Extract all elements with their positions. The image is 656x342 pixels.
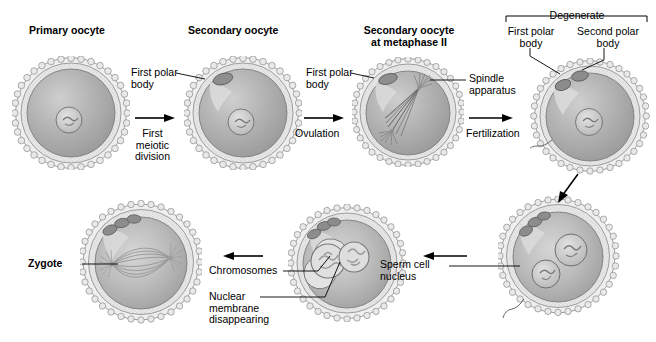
nucleus <box>576 109 603 136</box>
arrow-down-to-bottom-row <box>552 172 586 206</box>
nucleus <box>228 109 254 135</box>
third-polar-body <box>127 215 141 223</box>
cell-primary-oocyte <box>12 56 130 170</box>
cell-secondary-oocyte <box>184 56 302 170</box>
label-secondary-oocyte-metaphase: Secondary oocyte at metaphase II <box>355 25 463 48</box>
label-sperm-cell-nucleus: Sperm cell nucleus <box>380 259 430 282</box>
arrow-middle-to-zygote <box>222 250 264 262</box>
label-ovulation: Ovulation <box>295 128 339 140</box>
arrow-fertilization <box>468 112 514 124</box>
cell-zygote <box>80 200 202 324</box>
label-first-meiotic-division: First meiotic division <box>125 128 180 163</box>
diagram-canvas: Primary oocyte Secondary oocyte Secondar… <box>0 0 656 342</box>
sperm-cell-nucleus <box>532 260 560 288</box>
arrow-ovulation <box>303 112 345 124</box>
cell-metaphase-ii <box>352 57 464 167</box>
label-fertilization: Fertilization <box>466 128 520 140</box>
female-pronucleus <box>555 234 587 266</box>
label-second-polar-body: Second polar body <box>570 26 646 49</box>
label-nuclear-membrane: Nuclear membrane disappearing <box>209 291 269 326</box>
arrow-first-meiotic-division <box>134 112 176 124</box>
cell-two-pronuclei <box>498 196 622 318</box>
label-degenerate: Degenerate <box>529 10 625 22</box>
label-secondary-oocyte: Secondary oocyte <box>188 25 278 37</box>
label-zygote: Zygote <box>28 258 62 270</box>
label-first-polar-body-1: First polar body <box>131 67 178 90</box>
label-chromosomes: Chromosomes <box>209 265 277 277</box>
label-first-polar-body-3: First polar body <box>499 26 563 49</box>
label-first-polar-body-2: First polar body <box>306 67 353 90</box>
nucleus <box>56 107 82 133</box>
cell-fertilized-ovum <box>530 58 654 176</box>
label-primary-oocyte: Primary oocyte <box>29 25 105 37</box>
third-polar-body <box>328 218 341 226</box>
label-spindle-apparatus: Spindle apparatus <box>469 73 516 96</box>
